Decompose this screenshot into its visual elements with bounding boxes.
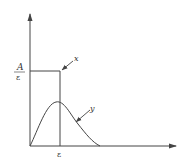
x-tick-epsilon: ε [57,150,61,159]
rectangular-pulse-x [30,71,60,146]
x-pointer-arrow [62,61,73,70]
level-label-numerator: A [16,62,24,72]
pulse-diagram: A ε x y ε [0,0,187,165]
level-label-denominator: ε [16,73,20,82]
curve-label-y: y [89,104,95,113]
curve-label-x: x [74,54,79,63]
y-pointer-arrow [76,110,90,122]
